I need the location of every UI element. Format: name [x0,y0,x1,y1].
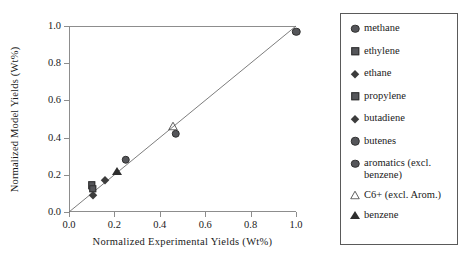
marker-diamond-icon [351,115,359,123]
x-tick-label: 0.8 [244,220,257,231]
legend-marker [348,157,362,170]
marker-triangle-open-icon [350,191,360,200]
legend-label: C6+ (excl. Arom.) [364,189,441,201]
x-axis-title: Normalized Experimental Yields (Wt%) [69,236,296,247]
legend-label: butenes [364,135,396,147]
x-tick-label: 0.6 [199,220,212,231]
legend-item[interactable]: butenes [348,135,453,148]
y-tick-label: 1.0 [48,21,61,32]
legend-label: propylene [364,90,406,102]
y-tick-label: 0.4 [48,132,61,143]
legend-item[interactable]: ethane [348,67,453,80]
legend-item[interactable]: aromatics (excl. benzene) [348,157,453,182]
legend-item[interactable]: benzene [348,209,453,222]
x-tick [205,212,206,217]
plot-canvas [69,26,296,212]
legend-label: butadiene [364,112,405,124]
legend-item[interactable]: butadiene [348,112,453,125]
marker-circle-icon [122,156,131,165]
data-point [171,130,180,139]
legend-label: aromatics (excl. benzene) [364,157,431,182]
legend-items: methaneethyleneethanepropylenebutadieneb… [348,22,453,222]
marker-square-icon [351,92,359,100]
legend-label: ethane [364,67,391,79]
y-tick-label: 0.0 [48,207,61,218]
x-tick [114,212,115,217]
x-tick-label: 0.0 [62,220,75,231]
parity-reference-line [69,26,296,212]
marker-triangle-open-icon [168,122,178,131]
x-tick [69,212,70,217]
marker-diamond-icon [351,70,359,78]
data-point [122,156,131,165]
legend-marker [348,90,362,103]
legend-marker [348,67,362,80]
parity-plot-figure: Normalized Model Yields (Wt%) 0.00.20.40… [0,0,460,262]
legend-item[interactable]: ethylene [348,45,453,58]
plot-area: 0.00.20.40.60.81.00.00.20.40.60.81.0 [69,26,296,212]
legend-item[interactable]: propylene [348,90,453,103]
legend-marker [348,135,362,148]
x-tick-label: 1.0 [289,220,302,231]
y-axis-title-text: Normalized Model Yields (Wt%) [10,46,21,192]
legend-item[interactable]: methane [348,22,453,35]
legend-item[interactable]: C6+ (excl. Arom.) [348,189,453,202]
marker-circle-icon [171,130,180,139]
marker-square-icon [89,185,97,193]
legend-label: methane [364,22,400,34]
x-tick-label: 0.4 [153,220,166,231]
marker-triangle-filled-icon [350,211,360,219]
x-tick [160,212,161,217]
legend-marker [348,189,362,202]
marker-triangle-filled-icon [112,167,122,175]
x-tick [296,212,297,217]
legend-marker [348,209,362,222]
data-point [112,167,122,175]
legend-box: methaneethyleneethanepropylenebutadieneb… [340,13,458,245]
legend-marker [348,22,362,35]
x-tick [251,212,252,217]
y-axis-title: Normalized Model Yields (Wt%) [8,26,22,212]
legend-label: benzene [364,209,398,221]
marker-circle-icon [292,27,301,36]
marker-circle-icon [351,159,360,168]
marker-circle-icon [351,24,360,33]
x-tick-label: 0.2 [108,220,121,231]
marker-circle-icon [351,137,360,146]
marker-square-icon [351,47,359,55]
data-point [89,185,97,193]
y-tick-label: 0.2 [48,170,61,181]
legend-marker [348,45,362,58]
y-tick-label: 0.6 [48,95,61,106]
y-tick-label: 0.8 [48,58,61,69]
legend-label: ethylene [364,45,400,57]
legend-marker [348,112,362,125]
data-point [292,27,301,36]
data-point [168,122,178,131]
